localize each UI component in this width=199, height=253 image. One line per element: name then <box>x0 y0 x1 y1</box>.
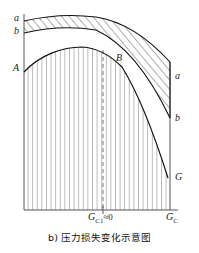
x-tick-right-subscript: C <box>173 217 178 225</box>
label-curve-b-left: b <box>14 26 19 36</box>
label-curve-a-left: a <box>14 13 19 23</box>
label-curve-a-right: a <box>175 71 180 81</box>
label-curve-B-mid: B <box>116 53 122 63</box>
label-point-G: G <box>175 172 182 182</box>
label-curve-A-left: A <box>13 63 19 73</box>
figure-caption: b) 压力损失变化示意图 <box>0 232 199 244</box>
pressure-loss-figure: a b A B a b G GC1≈0 GC b) 压力损失变化示意图 <box>0 0 199 253</box>
region-band-b-lower <box>20 8 178 218</box>
x-tick-mid-approx: ≈0 <box>103 212 112 222</box>
label-curve-b-right: b <box>175 113 180 123</box>
x-axis-tick-label-right: GC <box>166 212 178 226</box>
x-axis-tick-label-mid: GC1≈0 <box>88 212 113 226</box>
